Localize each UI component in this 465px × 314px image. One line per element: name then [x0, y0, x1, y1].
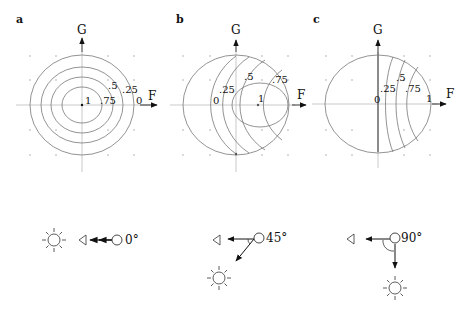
geometry-a: 0° — [42, 228, 139, 252]
f-axis-label: F — [297, 88, 305, 102]
contour-label-075: .75 — [100, 95, 116, 106]
eye-icon — [213, 235, 220, 245]
contour-label-05: .5 — [108, 80, 118, 91]
contour-label-1: 1 — [426, 93, 432, 104]
panel-a-label: a — [16, 13, 23, 26]
center-dot — [257, 104, 259, 106]
angle-label: 45° — [266, 231, 287, 245]
angle-label: 0° — [125, 233, 139, 247]
contour-label-025: .25 — [219, 84, 235, 95]
geometry-b: 45° — [207, 231, 287, 290]
panel-a: a G F 1 .75 .5 .25 0 — [16, 13, 157, 172]
contour-label-05: .5 — [244, 71, 254, 82]
panel-c-label: c — [313, 13, 320, 26]
light-direction-arrow — [236, 239, 254, 261]
angle-arc — [248, 239, 250, 244]
g-axis-label: G — [373, 23, 383, 37]
panel-c: c G F 0 .25 .5 .75 1 — [312, 13, 454, 168]
g-axis-label: G — [77, 23, 87, 37]
eye-icon — [79, 235, 86, 245]
g-axis-label: G — [231, 23, 241, 37]
sphere-icon — [254, 233, 264, 243]
f-axis-label: F — [148, 89, 156, 103]
contour-label-1: 1 — [258, 93, 264, 104]
contour-label-075: .75 — [405, 83, 421, 94]
sun-icon — [383, 276, 407, 300]
panel-b-label: b — [176, 13, 184, 26]
sphere-icon — [112, 235, 122, 245]
sun-icon — [207, 266, 231, 290]
contour-label-1: 1 — [85, 95, 91, 106]
contour-label-025: .25 — [122, 84, 138, 95]
figure-canvas: a G F 1 .75 .5 .25 0 b — [0, 0, 465, 314]
contour-label-0: 0 — [136, 95, 142, 106]
angle-label: 90° — [401, 231, 422, 245]
contour-label-0: 0 — [374, 94, 380, 105]
sun-icon — [42, 228, 66, 252]
contour-label-05: .5 — [396, 72, 406, 83]
contour-label-075: .75 — [272, 74, 288, 85]
panel-b: b G F 0 .25 .5 .75 1 — [170, 13, 306, 172]
tangent-dot — [235, 153, 237, 155]
f-axis-label: F — [446, 87, 454, 101]
contour-label-0: 0 — [213, 95, 219, 106]
geometry-c: 90° — [347, 231, 422, 300]
contour-label-025: .25 — [380, 83, 396, 94]
center-dot — [81, 104, 83, 106]
eye-icon — [347, 234, 354, 244]
sphere-icon — [390, 233, 400, 243]
